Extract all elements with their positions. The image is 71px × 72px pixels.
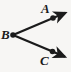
angle-diagram: A B C [0, 0, 71, 72]
ray-ba-line [13, 13, 66, 35]
point-label-a: A [41, 2, 50, 15]
point-b-dot [10, 32, 16, 38]
point-a-dot [50, 15, 56, 21]
point-c-dot [50, 49, 56, 55]
point-label-b: B [1, 28, 10, 41]
ray-bc-line [13, 35, 65, 57]
point-label-c: C [40, 54, 49, 67]
angle-diagram-canvas [0, 0, 71, 72]
